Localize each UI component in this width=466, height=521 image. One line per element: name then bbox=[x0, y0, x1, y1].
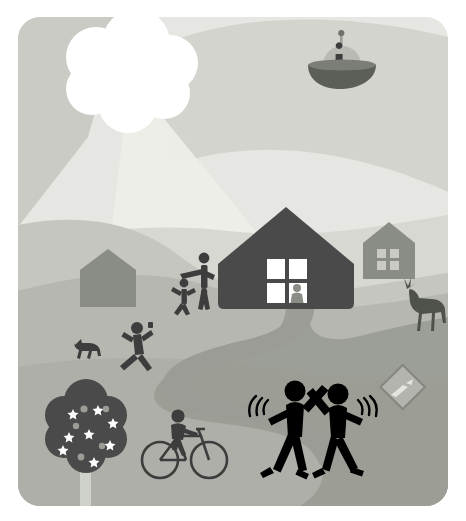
illustration-canvas bbox=[0, 0, 466, 521]
window-mullion-horizontal bbox=[267, 279, 307, 283]
illustration-frame bbox=[18, 17, 448, 506]
ufo-saucer-rim bbox=[308, 60, 376, 71]
sign-post bbox=[401, 405, 404, 451]
main-house-window bbox=[267, 259, 307, 303]
scene-svg bbox=[18, 17, 448, 506]
ufo-antenna-tip bbox=[338, 30, 344, 36]
